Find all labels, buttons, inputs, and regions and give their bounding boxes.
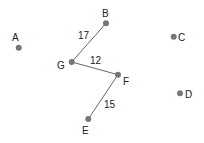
node-label: F: [123, 76, 129, 87]
node-C: [171, 34, 177, 40]
node-label: A: [12, 32, 19, 43]
node-label: C: [178, 32, 185, 43]
edge-weight-label: 12: [90, 55, 102, 66]
edge-weight-label: 15: [104, 99, 116, 110]
node-B: [103, 20, 109, 26]
node-label: E: [82, 125, 89, 136]
node-A: [16, 45, 22, 51]
edge-F-E: [88, 75, 118, 119]
node-F: [115, 72, 121, 78]
graph-diagram: 171215ABCDEFG: [0, 0, 204, 143]
node-G: [69, 59, 75, 65]
node-label: G: [57, 60, 65, 71]
node-label: B: [102, 8, 109, 19]
node-label: D: [185, 89, 192, 100]
node-D: [177, 90, 183, 96]
edge-weight-label: 17: [78, 30, 90, 41]
node-E: [85, 116, 91, 122]
